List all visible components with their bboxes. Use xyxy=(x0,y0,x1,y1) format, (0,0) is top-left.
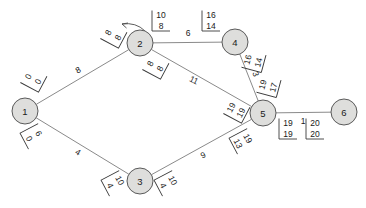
edge-weight-2-4: 6 xyxy=(186,28,191,38)
edge-2-4 xyxy=(153,42,222,43)
edge-weight-5-6: 1 xyxy=(301,116,306,126)
node-1[interactable]: 1 xyxy=(12,98,38,124)
flow-label-n1-e12: 00 xyxy=(23,72,44,86)
flow-value: 8 xyxy=(154,64,165,73)
capacity-value: 0 xyxy=(23,72,34,81)
node-label-4: 4 xyxy=(232,37,237,48)
capacity-value: 20 xyxy=(310,118,320,128)
node-layer: 123456 xyxy=(12,29,357,194)
node-label-5: 5 xyxy=(260,108,265,119)
flow-label-n5-e45: 1917 xyxy=(257,78,280,93)
flow-value: 14 xyxy=(206,21,216,31)
flow-label-n6-e56: 2020 xyxy=(310,118,320,139)
node-4[interactable]: 4 xyxy=(222,29,248,55)
edge-5-6 xyxy=(276,112,331,113)
node-label-6: 6 xyxy=(341,107,346,118)
edge-1-2 xyxy=(36,50,129,105)
edge-layer xyxy=(36,42,331,175)
node-3[interactable]: 3 xyxy=(127,168,153,194)
capacity-value: 6 xyxy=(33,129,44,138)
capacity-value: 8 xyxy=(145,59,156,68)
node-label-1: 1 xyxy=(22,106,27,117)
edge-1-3 xyxy=(36,118,129,174)
edge-weight-1-2: 8 xyxy=(73,64,82,75)
flow-value: 19 xyxy=(283,129,293,139)
capacity-value: 10 xyxy=(156,10,166,20)
flow-label-bracket-layer xyxy=(20,11,324,197)
flow-label-n4-e24: 1614 xyxy=(206,10,216,31)
flow-value: 4 xyxy=(105,181,116,190)
capacity-value: 19 xyxy=(283,118,293,128)
flow-label-n2-e12: 88 xyxy=(103,28,124,42)
flow-label-n2-e24: 108 xyxy=(156,10,166,31)
edge-weight-1-3: 4 xyxy=(73,146,82,157)
flow-value: 8 xyxy=(112,33,123,42)
node-6[interactable]: 6 xyxy=(331,99,357,125)
node-label-2: 2 xyxy=(137,38,142,49)
flow-label-n5-e56: 1919 xyxy=(283,118,293,139)
capacity-value: 8 xyxy=(103,28,114,37)
flow-value: 4 xyxy=(158,181,169,190)
flow-value: 0 xyxy=(24,134,35,143)
flow-value: 20 xyxy=(310,129,320,139)
edge-weight-layer: 84611931 xyxy=(73,28,305,161)
edge-weight-2-5: 11 xyxy=(188,74,201,87)
flow-value: 0 xyxy=(32,77,43,86)
capacity-value: 16 xyxy=(206,10,216,20)
network-graph-svg: 84611931 0088108161488191916141917601041… xyxy=(0,0,366,208)
node-5[interactable]: 5 xyxy=(250,100,276,126)
network-diagram-canvas: 84611931 0088108161488191916141917601041… xyxy=(0,0,366,208)
edge-weight-3-5: 9 xyxy=(199,149,208,160)
flow-value: 8 xyxy=(159,21,164,31)
flow-label-layer: 0088108161488191916141917601041041913191… xyxy=(23,10,320,193)
node-2[interactable]: 2 xyxy=(127,30,153,56)
edge-2-5 xyxy=(151,49,251,106)
node-label-3: 3 xyxy=(137,176,142,187)
edge-weight-4-5: 3 xyxy=(250,70,261,78)
flow-label-n4-e45: 1614 xyxy=(242,53,265,68)
flow-label-n2-e25: 88 xyxy=(145,59,166,73)
flow-label-n1-e13: 60 xyxy=(24,129,45,143)
